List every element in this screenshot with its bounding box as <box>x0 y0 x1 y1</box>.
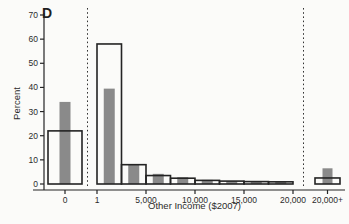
y-tick-label-30: 30 <box>29 107 39 117</box>
y-tick-label-40: 40 <box>29 82 39 92</box>
gray-bar-topcode <box>323 168 333 184</box>
histogram-svg: 010203040506070015,00010,00015,00020,000… <box>0 0 349 224</box>
y-tick-label-60: 60 <box>29 34 39 44</box>
histogram-panel: D Percent 010203040506070015,00010,00015… <box>0 0 349 224</box>
y-tick-label-70: 70 <box>29 10 39 20</box>
y-tick-label-50: 50 <box>29 58 39 68</box>
y-tick-label-0: 0 <box>33 179 38 189</box>
y-tick-label-10: 10 <box>29 155 39 165</box>
x-axis-title: Other Income ($2007) <box>40 200 349 211</box>
gray-bar-zero <box>60 102 71 184</box>
gray-bar-bin-1 <box>104 89 115 184</box>
y-tick-label-20: 20 <box>29 131 39 141</box>
gray-bar-bin-2 <box>128 165 139 184</box>
